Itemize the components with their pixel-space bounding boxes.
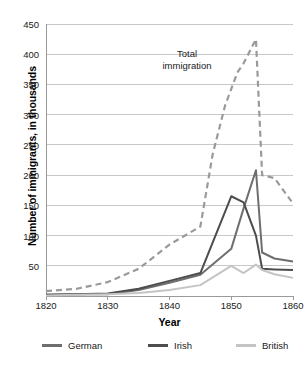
- legend-swatch-icon-british: [236, 344, 256, 347]
- total-immigration-annotation: Total immigration: [154, 48, 220, 71]
- annotation-line-2: immigration: [154, 60, 220, 72]
- series-line-german: [46, 170, 293, 295]
- chart-legend: GermanIrishBritish: [0, 338, 307, 358]
- y-tick-label-400: 400: [23, 49, 39, 60]
- series-line-total-immigration: [46, 39, 293, 291]
- y-tick-label-250: 250: [23, 139, 39, 150]
- annotation-line-1: Total: [154, 48, 220, 60]
- legend-swatch-icon-irish: [148, 344, 168, 347]
- x-axis-tick-labels: 18201830184018501860: [0, 300, 307, 316]
- legend-label-british: British: [262, 340, 288, 351]
- y-tick-label-200: 200: [23, 170, 39, 181]
- y-tick-label-350: 350: [23, 79, 39, 90]
- x-tick-label-1820: 1820: [35, 300, 56, 311]
- x-axis-title: Year: [46, 316, 293, 328]
- immigration-line-chart: Number of immigrants, in thousands 50100…: [0, 0, 307, 371]
- x-tick-label-1850: 1850: [221, 300, 242, 311]
- legend-item-british[interactable]: British: [236, 338, 288, 352]
- legend-item-irish[interactable]: Irish: [148, 338, 192, 352]
- x-tick-label-1830: 1830: [97, 300, 118, 311]
- x-tick-label-1840: 1840: [159, 300, 180, 311]
- y-tick-label-50: 50: [28, 260, 39, 271]
- legend-item-german[interactable]: German: [42, 338, 102, 352]
- y-tick-label-300: 300: [23, 109, 39, 120]
- legend-label-german: German: [68, 340, 102, 351]
- y-tick-label-150: 150: [23, 200, 39, 211]
- legend-label-irish: Irish: [174, 340, 192, 351]
- x-tick-label-1860: 1860: [282, 300, 303, 311]
- y-tick-label-450: 450: [23, 19, 39, 30]
- legend-swatch-icon-german: [42, 344, 62, 347]
- y-tick-label-100: 100: [23, 230, 39, 241]
